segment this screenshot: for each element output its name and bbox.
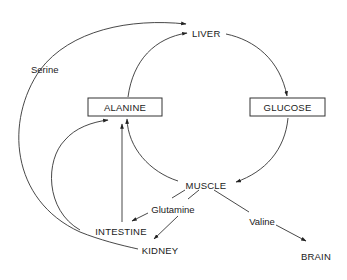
edge-label-serine: Serine: [31, 64, 58, 75]
edge-glucose-to-muscle: [236, 118, 288, 182]
edge-valine-to-brain: [276, 225, 306, 241]
node-kidney: KIDNEY: [142, 245, 179, 256]
edge-muscle-to-glutamine-left: [172, 190, 185, 198]
metabolic-flow-diagram: LIVER ALANINE GLUCOSE MUSCLE INTESTINE K…: [0, 0, 347, 280]
node-intestine: INTESTINE: [95, 226, 146, 237]
node-alanine: ALANINE: [88, 98, 162, 116]
edge-label-valine: Valine: [249, 216, 275, 227]
edge-muscle-to-valine: [214, 190, 249, 212]
edge-label-glutamine: Glutamine: [151, 204, 194, 215]
node-glucose: GLUCOSE: [250, 98, 325, 116]
edge-kidney-to-alanine: [51, 120, 108, 230]
edge-glutamine-to-kidney: [154, 216, 178, 239]
edge-alanine-to-liver: [128, 33, 187, 97]
edge-muscle-to-alanine: [127, 119, 178, 181]
alanine-label: ALANINE: [104, 102, 146, 113]
edge-muscle-to-glutamine-right: [188, 190, 199, 199]
glucose-label: GLUCOSE: [264, 102, 312, 113]
node-liver: LIVER: [192, 28, 220, 39]
edge-kidney-to-liver-serine: [19, 23, 186, 232]
edge-glutamine-to-intestine: [132, 213, 148, 221]
node-muscle: MUSCLE: [186, 180, 227, 191]
node-brain: BRAIN: [301, 251, 331, 262]
edge-liver-to-glucose: [226, 34, 287, 96]
